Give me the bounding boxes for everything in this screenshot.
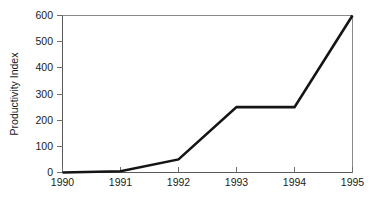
x-tick-label-1993: 1993: [225, 176, 249, 188]
y-tick-label-600: 600: [35, 9, 53, 21]
x-tick-label-1992: 1992: [167, 176, 191, 188]
data-series-line: [63, 16, 353, 173]
y-axis-title: Productivity Index: [8, 52, 20, 136]
x-tick-label-1994: 1994: [283, 176, 307, 188]
y-tick-label-200: 200: [35, 114, 53, 126]
x-tick-label-1991: 1991: [109, 176, 133, 188]
y-tick-label-300: 300: [35, 88, 53, 100]
y-axis-tick-labels: 600 500 400 300 200 100 0: [35, 9, 53, 178]
y-tick-label-500: 500: [35, 35, 53, 47]
line-chart: 600 500 400 300 200 100 0 1990 1991 1992…: [0, 0, 372, 198]
y-axis-ticks: [57, 16, 63, 173]
x-axis-tick-labels: 1990 1991 1992 1993 1994 1995: [51, 176, 365, 188]
chart-canvas: 600 500 400 300 200 100 0 1990 1991 1992…: [0, 0, 372, 198]
x-tick-label-1990: 1990: [51, 176, 75, 188]
x-tick-label-1995: 1995: [341, 176, 365, 188]
y-tick-label-100: 100: [35, 140, 53, 152]
y-tick-label-400: 400: [35, 61, 53, 73]
